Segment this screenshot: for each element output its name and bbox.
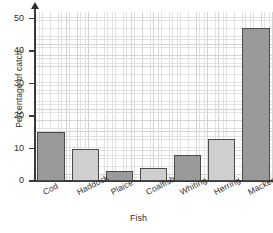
x-axis-title-text: Fish bbox=[130, 213, 147, 223]
y-axis-arrow-icon bbox=[31, 2, 39, 9]
x-tick-label-cod: Cod bbox=[41, 181, 60, 197]
bars-group bbox=[34, 12, 273, 181]
bar-herring bbox=[208, 139, 235, 181]
y-tick-label: 20 bbox=[2, 111, 24, 120]
y-tick-label: 10 bbox=[2, 144, 24, 153]
y-tick-label: 40 bbox=[2, 46, 24, 55]
y-tick-label: 0 bbox=[2, 176, 24, 185]
bar-cod bbox=[37, 132, 64, 181]
y-tick-label: 50 bbox=[2, 14, 24, 23]
y-tick-label: 30 bbox=[2, 79, 24, 88]
bar-haddock bbox=[72, 149, 99, 182]
bar-mackerel bbox=[242, 28, 269, 181]
bar-chart: Percentage of catch 01020304050 CodHaddo… bbox=[0, 0, 273, 233]
x-axis-title: Fish bbox=[0, 213, 273, 223]
